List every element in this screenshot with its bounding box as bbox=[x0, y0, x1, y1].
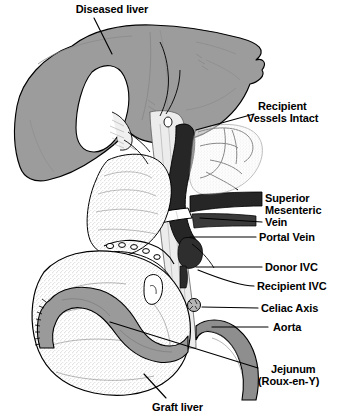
leader-celiac-axis bbox=[202, 307, 258, 308]
label-donor-ivc: Donor IVC bbox=[265, 261, 318, 273]
figure-canvas: Diseased liver Recipient Vessels Intact … bbox=[0, 0, 339, 420]
label-celiac-axis: Celiac Axis bbox=[261, 302, 318, 314]
label-diseased-liver: Diseased liver bbox=[52, 3, 172, 15]
label-graft-liver: Graft liver bbox=[152, 401, 203, 413]
aorta-shape bbox=[196, 320, 258, 400]
label-jejunum: Jejunum bbox=[271, 363, 316, 375]
label-mesenteric: Mesenteric bbox=[265, 204, 321, 216]
pancreas-body-shape bbox=[87, 154, 171, 256]
pancreas-duodenum-mass bbox=[190, 124, 263, 194]
label-recipient-vessels-intact-line1: Recipient bbox=[258, 100, 307, 112]
label-recipient-ivc: Recipient IVC bbox=[257, 280, 327, 292]
leader-recipient-ivc bbox=[198, 270, 254, 286]
label-portal-vein: Portal Vein bbox=[259, 231, 315, 243]
label-roux-en-y: (Roux-en-Y) bbox=[258, 375, 319, 387]
label-recipient-vessels-intact-line2: Vessels Intact bbox=[247, 112, 318, 124]
hilar-node bbox=[164, 117, 172, 127]
label-superior: Superior bbox=[265, 192, 309, 204]
label-aorta: Aorta bbox=[273, 321, 301, 333]
label-vein: Vein bbox=[265, 216, 287, 228]
celiac-axis-shape bbox=[188, 299, 201, 312]
